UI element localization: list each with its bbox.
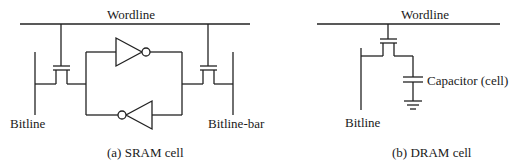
- capacitor-icon: [403, 56, 423, 101]
- sram-left-access-transistor: [35, 24, 86, 84]
- dram-capacitor-label: Capacitor (cell): [427, 73, 508, 88]
- top-inverter-icon: [116, 38, 142, 66]
- sram-bitline-label: Bitline: [10, 116, 46, 131]
- bottom-inverter-icon: [126, 101, 152, 129]
- dram-wordline-label: Wordline: [401, 7, 449, 22]
- sram-caption: (a) SRAM cell: [107, 145, 184, 160]
- sram-bitline-bar-label: Bitline-bar: [208, 116, 265, 131]
- sram-right-access-transistor: [182, 24, 233, 84]
- dram-access-transistor: [361, 24, 413, 56]
- sram-inverter-loop: [86, 38, 182, 129]
- dram-cell: Wordline Capacitor (cell) Bitli: [317, 7, 508, 160]
- ground-icon: [404, 101, 422, 109]
- dram-bitline-label: Bitline: [345, 115, 381, 130]
- sram-cell: Wordline: [10, 7, 265, 160]
- memory-cell-diagram: Wordline: [0, 0, 520, 168]
- dram-caption: (b) DRAM cell: [392, 145, 472, 160]
- sram-wordline-label: Wordline: [107, 7, 155, 22]
